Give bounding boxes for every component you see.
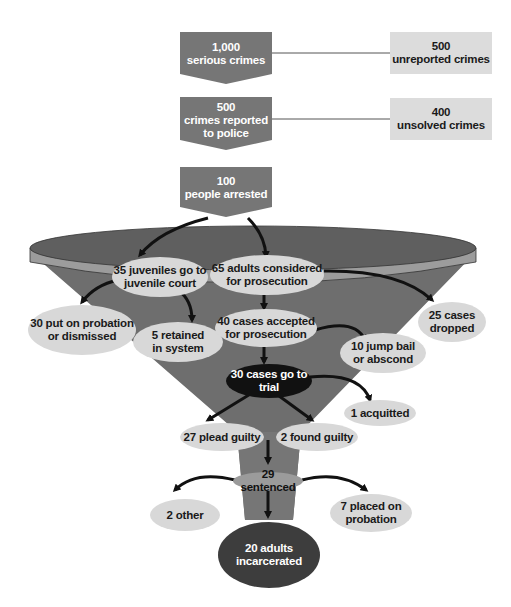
reported-crimes-label-2: to police: [184, 127, 268, 140]
node-acquitted: 1 acquitted: [344, 400, 416, 426]
other-line1: 2 other: [167, 509, 204, 522]
probation-dismissed-line1: 30 put on probation: [30, 317, 134, 330]
unsolved-count: 400: [397, 106, 485, 119]
pipeline-box-reported-crimes: 500 crimes reported to police: [180, 97, 272, 143]
accepted-line2: for prosecution: [217, 328, 315, 341]
pipeline-box-serious-crimes: 1,000 serious crimes: [180, 32, 272, 76]
justice-funnel-diagram: 1,000 serious crimes 500 crimes reported…: [0, 0, 511, 607]
jump-bail-line2: or abscond: [351, 353, 415, 366]
node-placed-probation: 7 placed onprobation: [330, 494, 412, 532]
serious-crimes-count: 1,000: [187, 41, 265, 54]
node-juveniles: 35 juveniles go tojuvenile court: [112, 257, 208, 297]
adults-line2: for prosecution: [212, 275, 322, 288]
juveniles-line1: 35 juveniles go to: [114, 264, 207, 277]
side-box-unsolved-crimes: 400 unsolved crimes: [390, 98, 492, 140]
reported-crimes-label: crimes reported: [184, 114, 268, 127]
node-other: 2 other: [150, 499, 220, 531]
acquitted-line1: 1 acquitted: [351, 407, 410, 420]
node-trial: 30 cases go totrial: [226, 364, 312, 398]
serious-crimes-label: serious crimes: [187, 54, 265, 67]
incarcerated-line2: incarcerated: [236, 555, 302, 568]
unsolved-label: unsolved crimes: [397, 119, 485, 132]
node-probation-dismissed: 30 put on probationor dismissed: [28, 305, 136, 355]
node-retained: 5 retainedin system: [133, 322, 223, 362]
reported-crimes-count: 500: [184, 101, 268, 114]
dropped-line1: 25 cases: [429, 309, 475, 322]
trial-line1: 30 cases go to: [231, 368, 307, 381]
node-adults: 65 adults consideredfor prosecution: [210, 255, 324, 295]
plead-guilty-line1: 27 plead guilty: [184, 431, 261, 444]
found-guilty-line1: 2 found guilty: [281, 431, 354, 444]
juveniles-line2: juvenile court: [114, 277, 207, 290]
sentenced-line1: 29 sentenced: [233, 468, 303, 494]
placed-probation-line1: 7 placed on: [340, 500, 401, 513]
incarcerated-line1: 20 adults: [236, 542, 302, 555]
arrow-sentenced-to-other: [175, 477, 235, 490]
adults-line1: 65 adults considered: [212, 262, 322, 275]
unreported-label: unreported crimes: [392, 53, 490, 66]
trial-line2: trial: [231, 381, 307, 394]
node-accepted: 40 cases acceptedfor prosecution: [215, 309, 317, 347]
probation-dismissed-line2: or dismissed: [30, 330, 134, 343]
retained-line1: 5 retained: [152, 329, 204, 342]
arrested-label: people arrested: [185, 188, 268, 201]
dropped-line2: dropped: [429, 322, 475, 335]
accepted-line1: 40 cases accepted: [217, 315, 315, 328]
node-jump-bail: 10 jump bailor abscond: [340, 333, 426, 373]
unreported-count: 500: [392, 40, 490, 53]
node-incarcerated: 20 adultsincarcerated: [218, 522, 320, 588]
arrested-count: 100: [185, 175, 268, 188]
retained-line2: in system: [152, 342, 204, 355]
arrow-sentenced-to-probation: [302, 477, 366, 490]
side-box-unreported-crimes: 500 unreported crimes: [390, 32, 492, 74]
node-sentenced: 29 sentenced: [233, 472, 303, 490]
jump-bail-line1: 10 jump bail: [351, 340, 415, 353]
placed-probation-line2: probation: [340, 513, 401, 526]
funnel-graphic: [0, 0, 511, 607]
pipeline-box-people-arrested: 100 people arrested: [180, 167, 272, 209]
node-found-guilty: 2 found guilty: [276, 423, 358, 451]
node-plead-guilty: 27 plead guilty: [180, 423, 264, 451]
node-dropped: 25 casesdropped: [418, 302, 486, 342]
